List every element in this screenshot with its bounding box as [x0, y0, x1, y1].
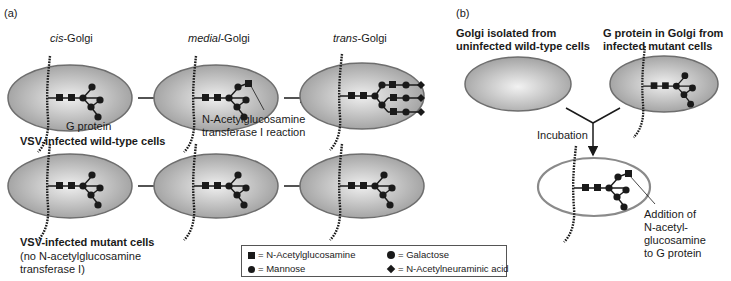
stage-label-trans: trans-Golgi [333, 32, 387, 44]
stage-label-medial: medial-Golgi [188, 32, 250, 44]
wildtype-cells-label: VSV-infected wild-type cells [20, 135, 166, 148]
trans-golgi-wildtype [300, 54, 425, 150]
circle-large-icon [387, 251, 395, 259]
mutant-golgi-title: G protein in Golgi from infected mutant … [603, 27, 723, 53]
stage-label-cis: cis-Golgi [50, 32, 93, 44]
incubation-label: Incubation [537, 129, 588, 142]
enzyme-label: N-Acetylglucosamine transferase I reacti… [202, 113, 305, 139]
mutant-note: (no N-acetylglucosamine transferase I) [20, 250, 141, 276]
panel-label-b: (b) [456, 7, 469, 19]
golgi-uninfected-wildtype [465, 57, 571, 111]
legend-item-n-acetylglucosamine: = N-Acetylglucosamine [248, 249, 355, 260]
trans-golgi-mutant [300, 144, 424, 240]
incubation-result-golgi [538, 146, 655, 242]
cis-golgi-mutant [8, 144, 132, 240]
legend-item-n-acetylneuraminic-acid: = N-Acetylneuraminic acid [387, 263, 509, 274]
circle-icon [248, 266, 255, 273]
golgi-mutant-g-protein [610, 46, 718, 137]
diamond-icon [387, 265, 395, 273]
legend-item-mannose: = Mannose [248, 263, 305, 274]
legend: = N-Acetylglucosamine = Galactose = Mann… [241, 245, 507, 277]
addition-note: Addition of N-acetyl- glucosamine to G p… [644, 208, 706, 260]
panel-label-a: (a) [4, 7, 17, 19]
g-protein-label: G protein [66, 120, 111, 133]
uninfected-golgi-title: Golgi isolated from uninfected wild-type… [456, 27, 590, 53]
medial-golgi-mutant [154, 144, 278, 240]
legend-item-galactose: = Galactose [387, 249, 449, 260]
mutant-cells-label: VSV-infected mutant cells [20, 236, 154, 249]
square-icon [248, 252, 255, 259]
